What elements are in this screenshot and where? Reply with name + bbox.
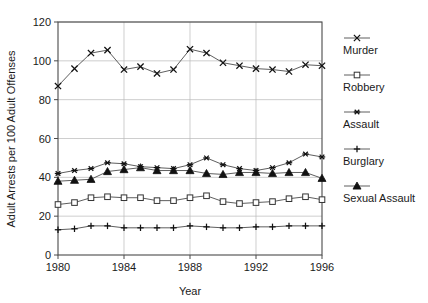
chart-container: 020406080100120 19801984198819921996 Mur…	[0, 0, 428, 303]
legend-label: Sexual Assault	[343, 192, 415, 204]
legend-label: Robbery	[343, 81, 385, 93]
y-axis-title: Adult Arrests per 100 Adult Offenses	[5, 50, 17, 228]
data-point-marker-open-square	[354, 72, 360, 78]
y-tick-label: 120	[33, 16, 51, 28]
y-tick-label: 20	[39, 210, 51, 222]
x-tick-label: 1984	[112, 261, 136, 273]
y-tick-label: 60	[39, 133, 51, 145]
legend-label: Burglary	[343, 155, 384, 167]
y-tick-label: 40	[39, 171, 51, 183]
x-tick-label: 1996	[310, 261, 334, 273]
legend-label: Murder	[343, 44, 378, 56]
data-point-marker-open-square	[88, 195, 94, 201]
x-tick-label: 1980	[46, 261, 70, 273]
data-point-marker-open-square	[154, 198, 160, 204]
y-tick-label: 0	[45, 249, 51, 261]
data-point-marker-open-square	[253, 200, 259, 206]
data-point-marker-open-square	[138, 195, 144, 201]
legend-label: Assault	[343, 118, 379, 130]
y-tick-label: 100	[33, 55, 51, 67]
x-tick-label: 1992	[244, 261, 268, 273]
data-point-marker-open-square	[237, 201, 243, 207]
data-point-marker-open-square	[171, 198, 177, 204]
data-point-marker-open-square	[220, 199, 226, 205]
data-point-marker-open-square	[121, 195, 127, 201]
data-point-marker-open-square	[204, 193, 210, 199]
line-chart: 020406080100120 19801984198819921996 Mur…	[0, 0, 428, 303]
x-axis-title: Year	[179, 285, 202, 297]
data-point-marker-open-square	[187, 195, 193, 201]
y-tick-label: 80	[39, 94, 51, 106]
data-point-marker-open-square	[303, 194, 309, 200]
data-point-marker-open-square	[270, 199, 276, 205]
data-point-marker-open-square	[105, 194, 111, 200]
data-point-marker-open-square	[72, 200, 78, 206]
x-tick-label: 1988	[178, 261, 202, 273]
data-point-marker-open-square	[319, 197, 325, 203]
data-point-marker-open-square	[286, 196, 292, 202]
data-point-marker-open-square	[55, 202, 61, 208]
